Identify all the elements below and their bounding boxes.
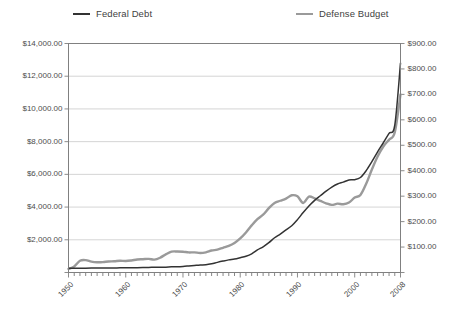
right-axis-tick-label: $900.00 — [408, 40, 437, 48]
left-axis-tick-label: $4,000.00 — [27, 203, 63, 211]
series-lines — [69, 63, 401, 269]
left-axis-tick-label: $2,000.00 — [27, 236, 63, 244]
left-axis-tick-label: $6,000.00 — [27, 170, 63, 178]
right-axis-tick-label: $400.00 — [408, 167, 437, 175]
plot-area — [0, 0, 458, 321]
legend-swatch-defense-budget — [296, 13, 313, 15]
left-axis-ticks — [65, 44, 69, 273]
legend-item-federal-debt: Federal Debt — [73, 8, 152, 19]
series-line-defense-budget — [69, 94, 401, 269]
left-axis-tick-label: $10,000.00 — [22, 105, 62, 113]
left-axis-tick-label: $12,000.00 — [22, 72, 62, 80]
right-axis-ticks — [401, 44, 405, 273]
right-axis-tick-label: $200.00 — [408, 218, 437, 226]
chart-container: Federal Debt Defense Budget $2,000.00$4,… — [0, 0, 458, 321]
legend-swatch-federal-debt — [73, 13, 90, 15]
series-line-federal-debt — [69, 63, 401, 268]
legend-item-defense-budget: Defense Budget — [296, 8, 389, 19]
legend-label-defense-budget: Defense Budget — [319, 8, 389, 19]
plot-frame — [69, 44, 401, 273]
right-axis-tick-label: $800.00 — [408, 65, 437, 73]
left-axis-tick-label: $14,000.00 — [22, 40, 62, 48]
right-axis-tick-label: $500.00 — [408, 141, 437, 149]
gridlines — [69, 76, 401, 240]
chart-legend: Federal Debt Defense Budget — [0, 6, 458, 26]
right-axis-tick-label: $700.00 — [408, 90, 437, 98]
right-axis-tick-label: $600.00 — [408, 116, 437, 124]
legend-label-federal-debt: Federal Debt — [96, 8, 152, 19]
right-axis-tick-label: $100.00 — [408, 243, 437, 251]
x-axis-minor-ticks — [69, 273, 401, 278]
left-axis-tick-label: $8,000.00 — [27, 138, 63, 146]
right-axis-tick-label: $300.00 — [408, 192, 437, 200]
